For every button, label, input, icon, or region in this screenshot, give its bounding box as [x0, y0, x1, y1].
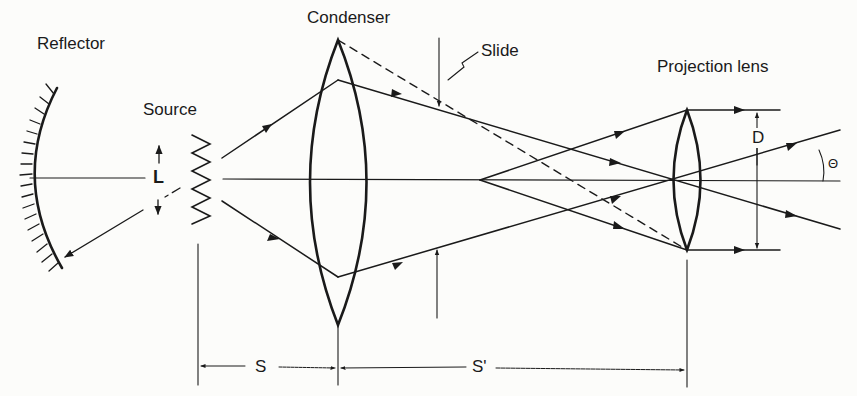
projection-lens-label: Projection lens [657, 57, 769, 77]
S-prime-label: S' [472, 357, 487, 377]
S-dimension [201, 366, 335, 368]
theta-angle-arc [819, 150, 824, 181]
S-label: S [255, 357, 266, 377]
reflected-ray [65, 188, 180, 257]
slide-position-arrows [437, 38, 439, 318]
condenser-lens [310, 40, 367, 325]
source-label: Source [143, 100, 197, 120]
optical-axis [30, 178, 840, 181]
dimension-extension-lines [198, 244, 687, 387]
condenser-label: Condenser [307, 8, 390, 28]
slide-leader [448, 52, 478, 80]
theta-label: Θ [828, 156, 838, 171]
reflector-label: Reflector [37, 34, 105, 54]
slide-label: Slide [481, 41, 519, 61]
S-prime-dimension [341, 367, 684, 370]
D-label: D [751, 128, 765, 148]
L-label: L [153, 167, 164, 188]
source-filament [192, 135, 210, 224]
dashed-marginal-ray [338, 40, 687, 250]
